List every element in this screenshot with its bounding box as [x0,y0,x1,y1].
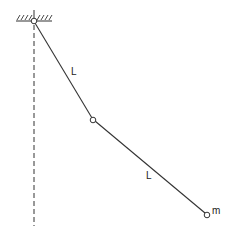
pivot-joint [31,18,37,24]
middle-joint [90,117,96,123]
upper-rod-label: L [71,66,77,77]
upper-rod [35,23,92,118]
mass-label: m [212,205,220,216]
end-mass [204,212,210,218]
lower-rod [95,121,205,213]
lower-rod-label: L [146,170,152,181]
double-pendulum-diagram: L L m [0,0,229,234]
